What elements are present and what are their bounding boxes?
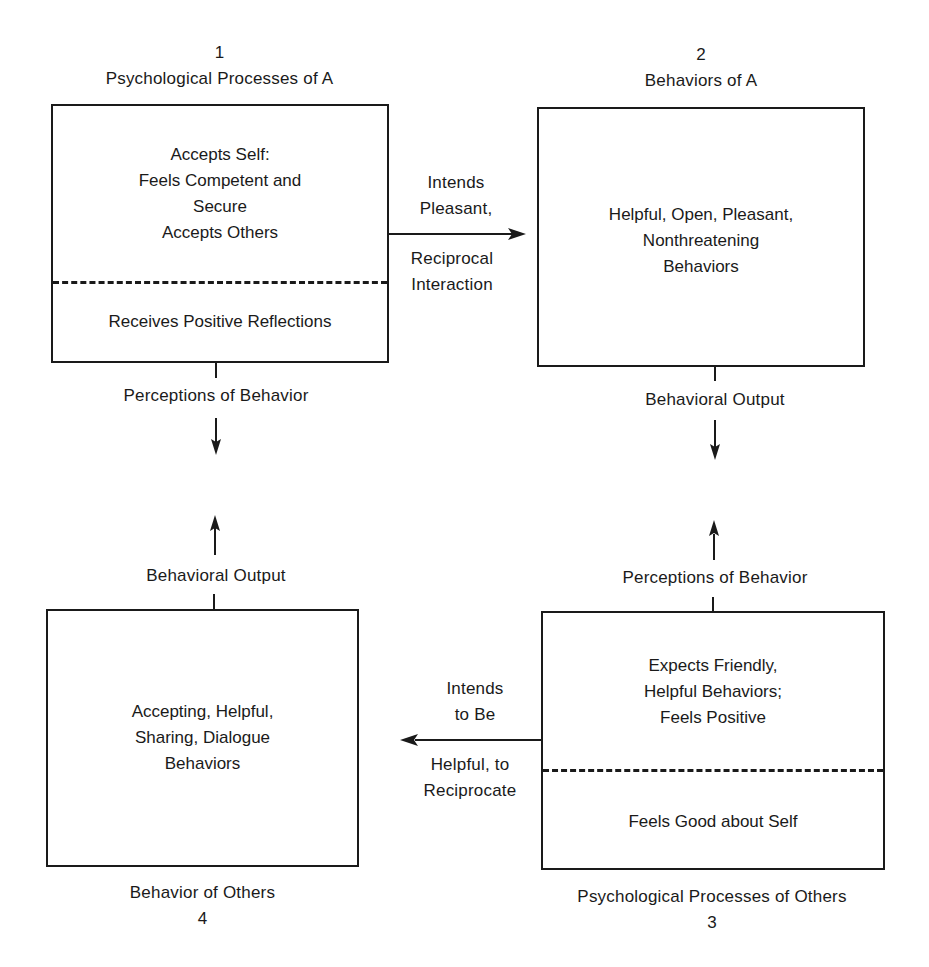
text-line: Interaction (388, 272, 516, 298)
text-line: Feels Positive (543, 705, 883, 731)
text-line: Receives Positive Reflections (53, 309, 387, 335)
text-line: Pleasant, (388, 196, 524, 222)
node-1-lower-text: Receives Positive Reflections (53, 309, 387, 335)
text-line: Helpful, Open, Pleasant, (539, 202, 863, 228)
text-line: Helpful Behaviors; (543, 679, 883, 705)
node-2-text: Helpful, Open, Pleasant, Nonthreatening … (539, 202, 863, 280)
node-2-title: Behaviors of A (537, 68, 865, 94)
node-1-psychological-processes-of-a: Accepts Self: Feels Competent and Secure… (51, 104, 389, 363)
text-line: Feels Competent and (53, 168, 387, 194)
node-4-behavior-of-others: Accepting, Helpful, Sharing, Dialogue Be… (46, 609, 359, 867)
node-4-title: Behavior of Others (46, 880, 359, 906)
edge-1-2-label-below: Reciprocal Interaction (388, 246, 516, 298)
node-4-text: Accepting, Helpful, Sharing, Dialogue Be… (48, 699, 357, 777)
node-3-title: Psychological Processes of Others (525, 884, 899, 910)
node-2-behaviors-of-a: Helpful, Open, Pleasant, Nonthreatening … (537, 107, 865, 367)
edge-2-3-perceptions-label: Perceptions of Behavior (560, 565, 870, 591)
arrow-down-icon (211, 418, 221, 455)
arrow-right-icon (389, 228, 526, 240)
arrow-up-icon (709, 520, 719, 560)
arrow-up-icon (210, 515, 220, 555)
node-1-number: 1 (51, 40, 388, 66)
edge-4-1-output-label: Behavioral Output (60, 563, 372, 589)
node-1-title: Psychological Processes of A (51, 66, 388, 92)
node-3-psychological-processes-of-others: Expects Friendly, Helpful Behaviors; Fee… (541, 611, 885, 870)
arrow-down-icon (710, 420, 720, 460)
text-line: Accepts Self: (53, 142, 387, 168)
text-line: Nonthreatening (539, 228, 863, 254)
text-line: Secure (53, 194, 387, 220)
text-line: Sharing, Dialogue (48, 725, 357, 751)
arrow-left-icon (400, 734, 541, 746)
edge-3-4-label-above: Intends to Be (410, 676, 540, 728)
node-3-lower-text: Feels Good about Self (543, 809, 883, 835)
edge-2-3-output-label: Behavioral Output (560, 387, 870, 413)
text-line: Reciprocate (400, 778, 540, 804)
edge-1-2-label-above: Intends Pleasant, (388, 170, 524, 222)
edge-4-1-perceptions-label: Perceptions of Behavior (60, 383, 372, 409)
node-1-upper-text: Accepts Self: Feels Competent and Secure… (53, 142, 387, 246)
node-3-upper-text: Expects Friendly, Helpful Behaviors; Fee… (543, 653, 883, 731)
node-3-number: 3 (525, 910, 899, 936)
node-4-number: 4 (46, 906, 359, 932)
text-line: Expects Friendly, (543, 653, 883, 679)
text-line: Behaviors (48, 751, 357, 777)
text-line: Accepting, Helpful, (48, 699, 357, 725)
edge-3-4-label-below: Helpful, to Reciprocate (400, 752, 540, 804)
text-line: Feels Good about Self (543, 809, 883, 835)
text-line: Reciprocal (388, 246, 516, 272)
text-line: to Be (410, 702, 540, 728)
text-line: Accepts Others (53, 220, 387, 246)
text-line: Behaviors (539, 254, 863, 280)
node-3-divider (543, 769, 883, 772)
text-line: Intends (388, 170, 524, 196)
node-1-divider (53, 281, 387, 284)
text-line: Intends (410, 676, 540, 702)
node-2-number: 2 (537, 42, 865, 68)
text-line: Helpful, to (400, 752, 540, 778)
